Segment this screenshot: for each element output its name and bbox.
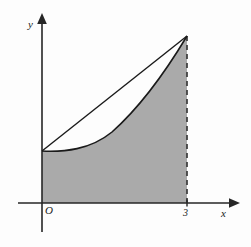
- function-plot: y x O 3: [0, 0, 251, 247]
- x-axis-arrow-icon: [229, 198, 240, 208]
- origin-label: O: [45, 204, 53, 216]
- x-axis-label: x: [220, 207, 226, 219]
- figure-container: y x O 3: [0, 0, 251, 247]
- x-tick-label-3: 3: [182, 207, 188, 218]
- shaded-region-under-curve: [42, 36, 187, 203]
- y-axis-label: y: [27, 18, 33, 30]
- y-axis-arrow-icon: [37, 13, 47, 24]
